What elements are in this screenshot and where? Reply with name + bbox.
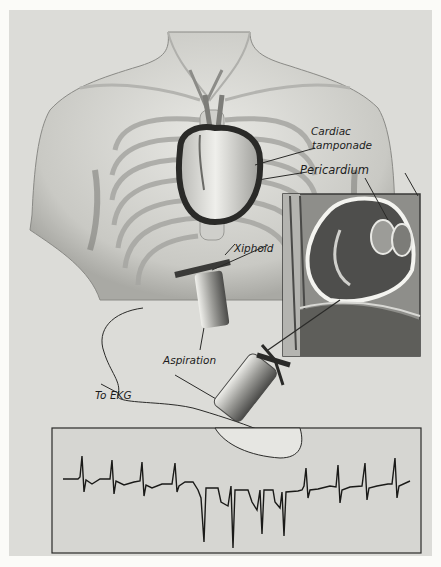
- lower-syringe: [212, 345, 290, 424]
- label-cardiac: Cardiac: [311, 126, 351, 137]
- pericardiocentesis-illustration: [0, 0, 441, 567]
- label-tamponade: tamponade: [312, 140, 372, 151]
- label-pericardium: Pericardium: [300, 165, 369, 176]
- label-aspiration: Aspiration: [163, 355, 216, 366]
- heart-cross-section-inset: [283, 194, 420, 356]
- label-to-ekg: To EKG: [95, 390, 132, 401]
- label-xiphoid: Xiphoid: [234, 243, 273, 254]
